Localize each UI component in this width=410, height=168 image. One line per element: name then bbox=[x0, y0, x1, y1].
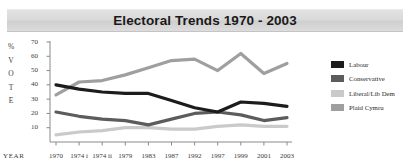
y-axis-title-char: % bbox=[8, 40, 14, 54]
x-axis-tick-label: 2001 bbox=[257, 152, 271, 160]
y-axis-tick-label: 50 bbox=[31, 67, 38, 74]
x-axis-tick-label: 1997 bbox=[211, 152, 225, 160]
y-axis-tick-label: 70 bbox=[31, 39, 38, 46]
y-axis-tick-label: 60 bbox=[31, 53, 38, 60]
series-line bbox=[56, 85, 287, 112]
y-axis-title-char: E bbox=[9, 94, 14, 108]
y-axis-title-char: V bbox=[8, 54, 13, 68]
x-axis-tick-label: 2003 bbox=[280, 152, 294, 160]
y-axis-tick-labels: 10203040506070 bbox=[16, 33, 38, 151]
x-axis-tick-label: 1979 bbox=[118, 152, 132, 160]
series-lines-svg bbox=[42, 38, 292, 148]
legend-label: Labour bbox=[349, 61, 369, 68]
legend-swatch-icon bbox=[331, 90, 344, 97]
legend-item: Conservative bbox=[331, 72, 407, 87]
x-axis-tick-labels: 19701974 i1974 ii19791983198719921997199… bbox=[0, 152, 410, 166]
chart-title-banner: Electoral Trends 1970 - 2003 bbox=[7, 9, 403, 32]
legend-swatch-icon bbox=[331, 104, 344, 111]
x-axis-tick-label: 1970 bbox=[49, 152, 63, 160]
series-line bbox=[56, 112, 287, 125]
page-title: Electoral Trends 1970 - 2003 bbox=[113, 13, 297, 28]
y-axis-tick-label: 20 bbox=[31, 110, 38, 117]
x-axis-tick-label: 1974 ii bbox=[92, 152, 112, 160]
y-axis-tick-label: 30 bbox=[31, 96, 38, 103]
x-axis-tick-label: 1983 bbox=[141, 152, 155, 160]
legend-swatch-icon bbox=[331, 61, 344, 68]
series-line bbox=[56, 125, 287, 135]
plot-area bbox=[42, 38, 292, 148]
legend-item: Labour bbox=[331, 57, 407, 72]
chart-legend: LabourConservativeLiberal/Lib DemPlaid C… bbox=[331, 57, 407, 115]
x-axis-tick-label: 1992 bbox=[188, 152, 202, 160]
y-axis-title-char: O bbox=[8, 67, 13, 81]
y-axis-title-char: T bbox=[9, 81, 14, 95]
electoral-trends-chart-figure: Electoral Trends 1970 - 2003 % V O T E 1… bbox=[0, 0, 410, 168]
legend-item: Plaid Cymru bbox=[331, 101, 407, 116]
x-axis-tick-label: 1987 bbox=[165, 152, 179, 160]
legend-item: Liberal/Lib Dem bbox=[331, 86, 407, 101]
x-axis-title: YEAR bbox=[3, 152, 24, 160]
series-line bbox=[56, 53, 287, 94]
y-axis-tick-label: 40 bbox=[31, 81, 38, 88]
y-axis-tick-label: 10 bbox=[31, 124, 38, 131]
legend-swatch-icon bbox=[331, 75, 344, 82]
legend-label: Conservative bbox=[349, 75, 385, 82]
x-axis-tick-label: 1999 bbox=[234, 152, 248, 160]
legend-label: Liberal/Lib Dem bbox=[349, 90, 395, 97]
legend-label: Plaid Cymru bbox=[349, 104, 384, 111]
x-axis-tick-label: 1974 i bbox=[70, 152, 88, 160]
